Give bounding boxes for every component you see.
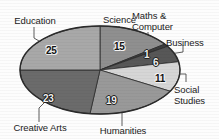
value-science: 15 — [114, 42, 125, 52]
label-education: Education — [4, 16, 66, 27]
pie-chart-figure: Education Science Maths & Computer Busin… — [0, 0, 219, 139]
pie-slice-education — [20, 26, 100, 70]
value-social-studies: 11 — [155, 74, 165, 84]
value-humanities: 19 — [106, 96, 117, 106]
value-maths-computer: 1 — [144, 50, 149, 60]
value-business: 6 — [153, 58, 158, 68]
value-creative-arts: 23 — [43, 94, 54, 104]
label-business: Business — [166, 38, 219, 49]
label-maths-computer: Maths & Computer — [132, 11, 192, 32]
label-humanities: Humanities — [92, 126, 154, 137]
value-education: 25 — [46, 46, 57, 56]
leader-line-creative-arts — [39, 101, 46, 122]
label-social-studies: Social Studies — [174, 85, 219, 106]
label-creative-arts: Creative Arts — [4, 123, 76, 134]
pie-slice-creative-arts — [20, 70, 100, 114]
